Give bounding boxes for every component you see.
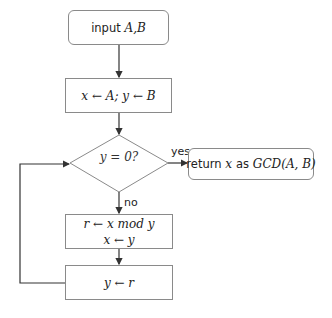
step2-node: y ← r bbox=[65, 265, 173, 300]
input-label: input bbox=[91, 21, 121, 35]
input-node: input A,B bbox=[68, 10, 169, 45]
init-node: x ← A; y ← B bbox=[65, 78, 172, 113]
return-math: GCD(A, B) bbox=[253, 157, 316, 171]
return-as: as bbox=[236, 157, 249, 171]
return-label: return bbox=[186, 157, 221, 171]
return-node: return x as GCD(A, B) bbox=[188, 148, 314, 180]
step1-node: r ← x mod y x ← y bbox=[65, 214, 173, 249]
decision-text: y = 0? bbox=[70, 150, 168, 164]
input-math: A,B bbox=[125, 21, 146, 35]
step1-line2: x ← y bbox=[103, 232, 134, 248]
step1-line1: r ← x mod y bbox=[84, 216, 155, 232]
step2-math: y ← r bbox=[104, 275, 134, 291]
return-var: x bbox=[225, 157, 232, 171]
no-label: no bbox=[124, 196, 138, 209]
init-math: x ← A; y ← B bbox=[81, 88, 155, 104]
